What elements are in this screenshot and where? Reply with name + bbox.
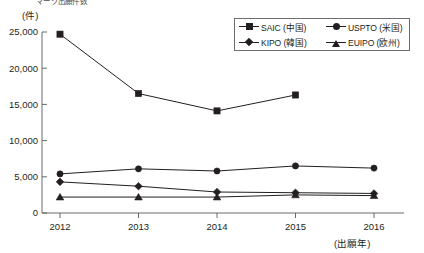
x-tick-label: 2016 bbox=[363, 221, 384, 232]
y-tick-label: 25,000 bbox=[9, 26, 38, 37]
x-tick-label: 2014 bbox=[206, 221, 227, 232]
chart-legend: SAIC (中国) USPTO (米国) KIPO (韓国) EUIPO (欧州… bbox=[234, 18, 410, 51]
legend-label-saic: SAIC (中国) bbox=[261, 21, 306, 33]
data-point-circle bbox=[371, 165, 377, 171]
x-tick-label: 2015 bbox=[285, 221, 306, 232]
diamond-marker-icon bbox=[239, 37, 259, 47]
legend-label-euipo: EUIPO (欧州) bbox=[348, 36, 400, 48]
triangle-marker-icon bbox=[326, 37, 346, 47]
x-tick-label: 2013 bbox=[128, 221, 149, 232]
square-marker-icon bbox=[239, 22, 259, 32]
y-tick-label: 20,000 bbox=[9, 63, 38, 74]
data-point-square bbox=[214, 108, 220, 114]
data-point-circle bbox=[214, 168, 220, 174]
legend-entry-euipo: EUIPO (欧州) bbox=[322, 36, 409, 48]
chart-container: マーク出願件数 (件) 05,00010,00015,00020,00025,0… bbox=[0, 0, 424, 253]
y-tick-label: 10,000 bbox=[9, 135, 38, 146]
circle-marker-icon bbox=[326, 22, 346, 32]
data-point-circle bbox=[292, 163, 298, 169]
legend-entry-kipo: KIPO (韓国) bbox=[235, 36, 322, 48]
y-tick-label: 5,000 bbox=[14, 171, 38, 182]
data-point-square bbox=[292, 92, 298, 98]
legend-label-kipo: KIPO (韓国) bbox=[261, 36, 307, 48]
data-point-circle bbox=[57, 171, 63, 177]
y-tick-label: 15,000 bbox=[9, 99, 38, 110]
legend-entry-saic: SAIC (中国) bbox=[235, 21, 322, 33]
data-point-diamond bbox=[135, 182, 143, 190]
data-point-circle bbox=[135, 166, 141, 172]
x-axis-group: 20122013201420152016 bbox=[42, 213, 404, 232]
series-group bbox=[56, 31, 378, 200]
data-point-square bbox=[57, 31, 63, 37]
x-axis-unit-label: (出願年) bbox=[334, 236, 370, 250]
data-point-square bbox=[135, 90, 141, 96]
y-axis-group: 05,00010,00015,00020,00025,000 bbox=[9, 26, 47, 218]
y-tick-label: 0 bbox=[33, 207, 38, 218]
x-tick-label: 2012 bbox=[49, 221, 70, 232]
legend-label-uspto: USPTO (米国) bbox=[348, 21, 403, 33]
legend-entry-uspto: USPTO (米国) bbox=[322, 21, 409, 33]
data-point-diamond bbox=[56, 178, 64, 186]
